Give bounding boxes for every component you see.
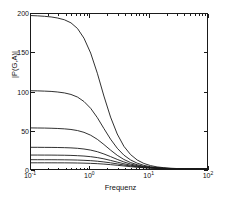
x-minor-tick-mark: [205, 14, 206, 16]
y-tick-mark: [204, 170, 208, 171]
x-minor-tick-mark: [66, 168, 67, 170]
y-tick-mark: [31, 131, 35, 132]
x-tick-label: 10-1: [24, 172, 36, 180]
x-tick-label: 102: [203, 172, 214, 180]
x-tick-label: 100: [84, 172, 95, 180]
x-minor-tick-mark: [136, 14, 137, 16]
y-tick-mark: [204, 131, 208, 132]
x-minor-tick-mark: [71, 14, 72, 16]
x-minor-tick-mark: [139, 168, 140, 170]
x-minor-tick-mark: [195, 168, 196, 170]
x-minor-tick-mark: [66, 14, 67, 16]
x-minor-tick-mark: [125, 168, 126, 170]
y-tick-mark: [31, 13, 35, 14]
x-minor-tick-mark: [84, 14, 85, 16]
y-tick-mark: [204, 92, 208, 93]
x-tick-mark: [149, 166, 150, 170]
x-minor-tick-mark: [58, 168, 59, 170]
x-minor-tick-mark: [87, 14, 88, 16]
x-minor-tick-mark: [202, 168, 203, 170]
x-minor-tick-mark: [48, 168, 49, 170]
x-minor-tick-mark: [184, 14, 185, 16]
x-minor-tick-mark: [146, 168, 147, 170]
x-tick-mark: [89, 14, 90, 18]
y-tick-mark: [204, 52, 208, 53]
x-minor-tick-mark: [48, 14, 49, 16]
x-minor-tick-mark: [177, 14, 178, 16]
x-tick-mark: [208, 14, 209, 18]
y-tick-label: 150: [17, 49, 29, 56]
x-minor-tick-mark: [76, 14, 77, 16]
x-tick-mark: [149, 14, 150, 18]
x-minor-tick-mark: [143, 14, 144, 16]
x-minor-tick-mark: [177, 168, 178, 170]
x-minor-tick-mark: [167, 168, 168, 170]
x-minor-tick-mark: [190, 14, 191, 16]
plot-area: [30, 13, 208, 170]
x-tick-mark: [30, 166, 31, 170]
x-minor-tick-mark: [190, 168, 191, 170]
x-tick-mark: [30, 14, 31, 18]
x-minor-tick-mark: [131, 168, 132, 170]
x-minor-tick-mark: [125, 14, 126, 16]
x-minor-tick-mark: [143, 168, 144, 170]
x-minor-tick-mark: [84, 168, 85, 170]
x-minor-tick-mark: [107, 14, 108, 16]
x-minor-tick-mark: [76, 168, 77, 170]
curves-group: [31, 14, 207, 169]
y-tick-mark: [31, 52, 35, 53]
x-minor-tick-mark: [202, 14, 203, 16]
x-minor-tick-mark: [118, 168, 119, 170]
figure-canvas: 050100150200 10-1100101102 |P(G,A)| Freq…: [0, 0, 241, 198]
x-minor-tick-mark: [146, 14, 147, 16]
x-minor-tick-mark: [184, 168, 185, 170]
x-minor-tick-mark: [58, 14, 59, 16]
x-minor-tick-mark: [199, 168, 200, 170]
x-tick-label: 101: [143, 172, 154, 180]
y-tick-mark: [31, 170, 35, 171]
y-tick-label: 100: [17, 88, 29, 95]
x-minor-tick-mark: [71, 168, 72, 170]
x-minor-tick-mark: [199, 14, 200, 16]
data-series-curve-2: [31, 91, 207, 169]
x-minor-tick-mark: [118, 14, 119, 16]
x-minor-tick-mark: [80, 14, 81, 16]
y-tick-mark: [31, 92, 35, 93]
data-series-curve-5: [31, 155, 207, 169]
x-minor-tick-mark: [205, 168, 206, 170]
y-axis-title: |P(G,A)|: [10, 35, 19, 95]
x-minor-tick-mark: [131, 14, 132, 16]
y-tick-label: 200: [17, 10, 29, 17]
x-tick-mark: [208, 166, 209, 170]
x-minor-tick-mark: [136, 168, 137, 170]
x-tick-mark: [89, 166, 90, 170]
y-tick-label: 50: [21, 127, 29, 134]
x-axis-title: Frequenz: [0, 183, 241, 192]
x-minor-tick-mark: [139, 14, 140, 16]
x-minor-tick-mark: [107, 168, 108, 170]
x-minor-tick-mark: [80, 168, 81, 170]
x-minor-tick-mark: [87, 168, 88, 170]
x-minor-tick-mark: [195, 14, 196, 16]
x-minor-tick-mark: [167, 14, 168, 16]
